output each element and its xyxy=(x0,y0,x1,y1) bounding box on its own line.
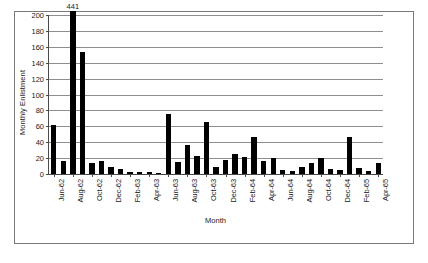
x-tick-label: Jun-64 xyxy=(286,179,295,201)
bar xyxy=(204,122,209,174)
y-tick-label: 0 xyxy=(40,170,44,179)
y-tick-label: 160 xyxy=(31,42,44,51)
plot-area: 020406080100120140160180200 441 Jun-62Au… xyxy=(48,15,383,175)
bar xyxy=(61,161,66,175)
x-tick-label: Feb-65 xyxy=(362,179,371,202)
x-tick-label: Oct-62 xyxy=(95,179,104,201)
y-tick-label: 120 xyxy=(31,74,44,83)
x-tick-mark xyxy=(283,174,284,177)
chart-figure: Monthly Enlistment 020406080100120140160… xyxy=(0,0,428,263)
bar xyxy=(223,160,228,174)
bar xyxy=(194,156,199,174)
bar xyxy=(156,173,161,174)
bar xyxy=(89,163,94,174)
bar xyxy=(242,157,247,174)
x-tick-mark xyxy=(73,174,74,177)
bar-value-label: 441 xyxy=(67,2,80,11)
bar xyxy=(185,145,190,174)
x-tick-mark xyxy=(245,174,246,177)
x-tick-mark xyxy=(92,174,93,177)
bar xyxy=(309,163,314,174)
bar xyxy=(299,167,304,174)
bar xyxy=(99,161,104,174)
bar xyxy=(290,171,295,174)
x-tick-mark xyxy=(359,174,360,177)
x-tick-mark xyxy=(149,174,150,177)
bar xyxy=(213,167,218,174)
gridline xyxy=(49,174,383,175)
y-tick-label: 200 xyxy=(31,11,44,20)
y-tick-label: 180 xyxy=(31,26,44,35)
x-tick-label: Apr-63 xyxy=(152,179,161,201)
bar xyxy=(232,154,237,174)
bar xyxy=(118,169,123,174)
x-tick-label: Oct-63 xyxy=(209,179,218,201)
x-axis-title: Month xyxy=(48,216,383,225)
x-tick-mark xyxy=(54,174,55,177)
bar-series xyxy=(49,15,383,174)
x-tick-label: Aug-63 xyxy=(190,179,199,203)
y-tick-label: 20 xyxy=(36,154,44,163)
bar xyxy=(376,163,381,174)
x-tick-label: Feb-64 xyxy=(248,179,257,202)
bar xyxy=(271,158,276,174)
x-tick-mark xyxy=(378,174,379,177)
x-tick-label: Dec-64 xyxy=(343,179,352,203)
x-tick-mark xyxy=(340,174,341,177)
x-tick-mark xyxy=(321,174,322,177)
y-tick-label: 100 xyxy=(31,90,44,99)
x-tick-mark xyxy=(302,174,303,177)
bar xyxy=(51,125,56,174)
x-tick-label: Jun-62 xyxy=(57,179,66,201)
x-tick-label: Aug-64 xyxy=(305,179,314,203)
x-tick-label: Aug-62 xyxy=(76,179,85,203)
x-tick-mark xyxy=(111,174,112,177)
x-tick-label: Dec-62 xyxy=(114,179,123,203)
bar xyxy=(318,158,323,174)
bar xyxy=(366,171,371,174)
y-tick-mark xyxy=(46,174,49,175)
x-tick-label: Jun-63 xyxy=(171,179,180,201)
bar xyxy=(166,114,171,174)
bar xyxy=(137,172,142,174)
x-tick-mark xyxy=(264,174,265,177)
bar xyxy=(251,137,256,174)
bar xyxy=(80,52,85,174)
bar xyxy=(108,167,113,174)
x-tick-mark xyxy=(226,174,227,177)
x-tick-mark xyxy=(206,174,207,177)
bar xyxy=(70,11,75,174)
x-tick-mark xyxy=(168,174,169,177)
x-tick-label: Oct-64 xyxy=(324,179,333,201)
x-tick-label: Dec-63 xyxy=(229,179,238,203)
x-tick-label: Apr-65 xyxy=(381,179,390,201)
y-axis-title: Monthly Enlistment xyxy=(18,48,27,158)
y-tick-label: 80 xyxy=(36,106,44,115)
x-tick-mark xyxy=(130,174,131,177)
bar xyxy=(175,162,180,174)
bar xyxy=(328,169,333,174)
x-tick-mark xyxy=(187,174,188,177)
bar xyxy=(347,137,352,174)
bar xyxy=(261,161,266,174)
y-tick-label: 40 xyxy=(36,138,44,147)
y-tick-label: 60 xyxy=(36,122,44,131)
x-tick-label: Feb-63 xyxy=(133,179,142,202)
y-tick-label: 140 xyxy=(31,58,44,67)
x-tick-label: Apr-64 xyxy=(267,179,276,201)
